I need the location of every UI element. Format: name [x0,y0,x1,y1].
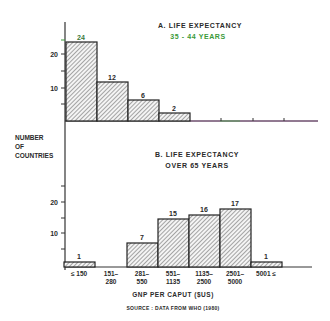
x-category-label: 2500 [197,278,212,285]
panel-b-subtitle: OVER 65 YEARS [165,162,228,169]
x-category-label: ≤ 150 [71,270,88,277]
x-category-label: 1135– [195,270,213,277]
x-category-label: 5000 [228,278,243,285]
panel-a-title: A. LIFE EXPECTANCY [158,22,242,29]
y-axis-label: NUMBER OF COUNTRIES [15,134,54,159]
source-note: SOURCE : DATA FROM WHO (1980) [126,305,219,311]
panel-a-bar-label: 2 [172,105,176,112]
x-category-label: 280 [106,278,117,285]
panel-b-ytick-20: 20 [50,199,58,206]
panel-b: B. LIFE EXPECTANCY OVER 65 YEARS 20 10 1… [50,151,312,267]
x-category-label: 5001 ≤ [256,270,276,277]
x-category-label: 551– [166,270,181,277]
panel-a-bar-label: 6 [141,92,145,99]
panel-b-bar-label: 15 [169,210,177,217]
x-category-label: 1135 [166,278,180,285]
panel-b-bar [127,243,158,267]
panel-b-bar [220,209,251,267]
panel-b-bar [64,262,95,267]
panel-a-bar [97,82,128,121]
y-label-line: COUNTRIES [15,152,54,159]
panel-b-bar-label: 7 [140,234,144,241]
x-category-label: 550 [137,278,148,285]
life-expectancy-chart: 20 10 24 12 6 2 A. LIFE EXPECTANCY 35 - … [0,0,330,321]
panel-a-bar [159,113,190,121]
panel-a-bar-label: 24 [77,34,85,41]
panel-b-title: B. LIFE EXPECTANCY [155,151,239,158]
panel-a-subtitle: 35 - 44 YEARS [170,33,226,40]
panel-b-bar-label: 17 [231,200,239,207]
y-label-line: OF [15,143,24,150]
panel-b-bar [251,262,282,267]
panel-b-bar-label: 16 [200,206,208,213]
panel-b-bar [158,219,189,267]
x-category-labels: ≤ 150 151– 280 281– 550 551– 1135 1135– … [71,270,276,285]
x-category-label: 2501– [226,270,244,277]
panel-a-bar-label: 12 [108,74,116,81]
panel-a-bar [128,100,159,121]
panel-a: 20 10 24 12 6 2 A. LIFE EXPECTANCY 35 - … [50,22,318,121]
y-label-line: NUMBER [15,134,44,141]
panel-a-bar [66,42,97,121]
x-axis-label: GNP PER CAPUT ($US) [132,291,214,299]
panel-b-bar-label: 1 [264,253,268,260]
panel-a-ytick-20: 20 [50,51,58,58]
panel-b-ytick-10: 10 [50,230,58,237]
x-category-label: 281– [135,270,150,277]
panel-b-bar [189,215,220,267]
panel-b-bar-label: 1 [77,253,81,260]
panel-a-ytick-10: 10 [50,85,58,92]
x-category-label: 151– [104,270,119,277]
